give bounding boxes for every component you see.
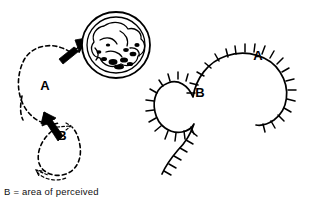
figure-canvas: A B [0, 0, 317, 204]
dashed-loop-a-tail [21, 96, 23, 120]
right-panel: A B [146, 44, 296, 175]
right-label-a: A [253, 48, 263, 63]
figure-caption: B = area of perceived [4, 186, 99, 197]
dashed-loop-b-bottom-tail [37, 172, 66, 180]
left-panel: A B [18, 12, 150, 180]
left-label-b: B [57, 128, 66, 143]
left-label-a: A [40, 78, 50, 93]
round-mass [82, 12, 150, 78]
right-label-b: B [195, 85, 204, 100]
figure-root: A B [0, 0, 317, 204]
hatch-marks-tail [164, 131, 197, 175]
